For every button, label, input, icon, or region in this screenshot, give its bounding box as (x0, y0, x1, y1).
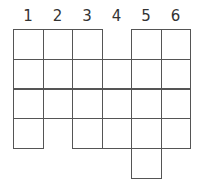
grid-cell (161, 29, 192, 60)
grid-cell (43, 59, 74, 90)
grid-cell (102, 59, 133, 90)
grid-cell (13, 89, 44, 120)
column-label-5: 5 (131, 7, 161, 25)
grid-cell (13, 118, 44, 149)
grid-cell (102, 89, 133, 120)
column-label-3: 3 (72, 7, 102, 25)
grid-cell (43, 29, 74, 60)
grid-cell (13, 59, 44, 90)
grid-cell (13, 29, 44, 60)
column-label-4: 4 (102, 7, 132, 25)
grid-cell (131, 59, 162, 90)
grid-cell (131, 148, 162, 179)
column-label-2: 2 (43, 7, 73, 25)
grid-cell (43, 89, 74, 120)
column-label-1: 1 (13, 7, 43, 25)
grid-cell (131, 118, 162, 149)
grid-cell (72, 89, 103, 120)
grid-cell (72, 118, 103, 149)
grid-cell (161, 118, 192, 149)
grid-cell (131, 29, 162, 60)
grid-cell (72, 59, 103, 90)
grid-cell (102, 118, 133, 149)
grid-cell (131, 89, 162, 120)
grid-cell (72, 29, 103, 60)
column-label-6: 6 (161, 7, 191, 25)
grid-cell (161, 89, 192, 120)
grid-cell (161, 59, 192, 90)
